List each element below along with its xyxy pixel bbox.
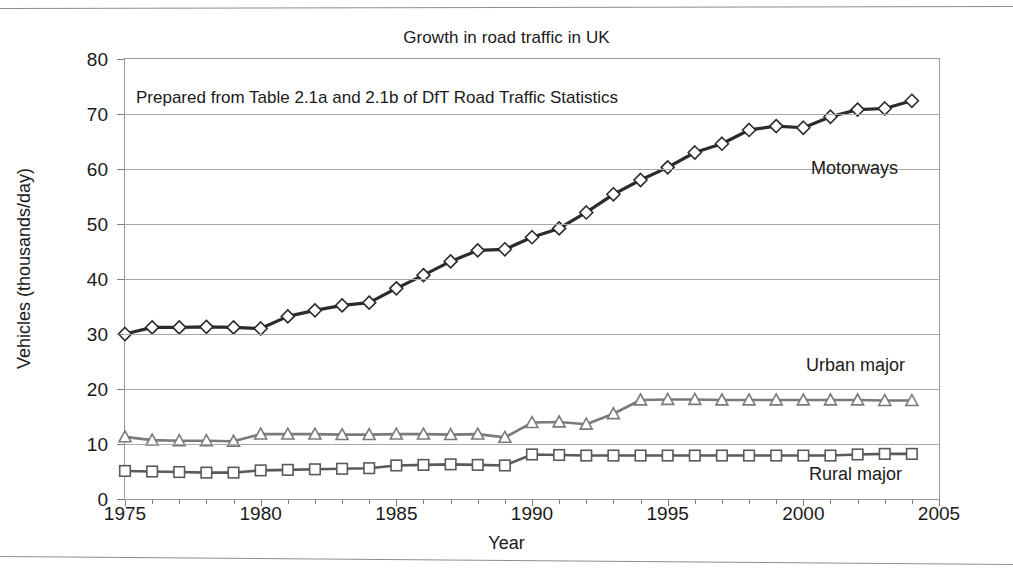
data-point-marker xyxy=(283,465,294,476)
data-point-marker xyxy=(337,463,348,474)
data-point-marker xyxy=(825,450,836,461)
data-point-marker xyxy=(120,466,131,477)
data-point-marker xyxy=(688,146,701,159)
data-point-marker xyxy=(824,110,837,123)
data-point-marker xyxy=(635,450,646,461)
gridline xyxy=(125,224,939,225)
x-tick-mark xyxy=(830,500,831,504)
data-point-marker xyxy=(743,123,756,136)
series-annotation-rural-major: Rural major xyxy=(809,464,902,485)
y-tick-mark xyxy=(117,59,124,60)
y-axis-title: Vehicles (thousands/day) xyxy=(14,59,35,479)
x-tick-label: 1975 xyxy=(104,504,146,523)
x-tick-label: 1980 xyxy=(240,504,282,523)
data-point-marker xyxy=(527,449,538,460)
x-tick-mark xyxy=(261,500,262,506)
data-point-marker xyxy=(662,450,673,461)
x-tick-mark xyxy=(369,500,370,504)
x-axis-title: Year xyxy=(0,533,1013,554)
x-tick-label: 1985 xyxy=(375,504,417,523)
data-point-marker xyxy=(391,460,402,471)
data-point-marker xyxy=(227,321,240,334)
data-point-marker xyxy=(201,467,212,478)
x-tick-mark xyxy=(125,500,126,506)
x-tick-mark xyxy=(749,500,750,504)
gridline xyxy=(125,444,939,445)
data-point-marker xyxy=(770,120,783,133)
chart-subtitle: Prepared from Table 2.1a and 2.1b of DfT… xyxy=(136,88,618,108)
x-tick-mark xyxy=(206,500,207,504)
y-tick-label: 80 xyxy=(87,50,108,69)
data-point-marker xyxy=(500,460,511,471)
data-point-marker xyxy=(471,244,484,257)
data-point-marker xyxy=(174,467,185,478)
x-tick-mark xyxy=(668,500,669,506)
x-tick-label: 2000 xyxy=(782,504,824,523)
series-urban-major xyxy=(119,393,918,446)
data-point-marker xyxy=(717,450,728,461)
data-point-marker xyxy=(798,450,809,461)
y-tick-label: 70 xyxy=(87,105,108,124)
data-point-marker xyxy=(308,304,321,317)
x-tick-mark xyxy=(803,500,804,506)
gridline xyxy=(125,114,939,115)
data-point-marker xyxy=(200,320,213,333)
data-point-marker xyxy=(498,243,511,256)
series-rural-major xyxy=(120,449,917,478)
scanned-page: Growth in road traffic in UK 01020304050… xyxy=(0,0,1013,583)
data-point-marker xyxy=(581,450,592,461)
data-point-marker xyxy=(634,174,647,187)
x-tick-mark xyxy=(858,500,859,504)
data-point-marker xyxy=(879,449,890,460)
y-tick-mark xyxy=(117,499,124,500)
x-tick-mark xyxy=(885,500,886,504)
chart-title: Growth in road traffic in UK xyxy=(0,28,1013,48)
series-line xyxy=(125,454,912,473)
data-point-marker xyxy=(363,296,376,309)
x-tick-mark xyxy=(559,500,560,504)
y-tick-mark xyxy=(117,114,124,115)
x-tick-mark xyxy=(722,500,723,504)
chart-figure: Growth in road traffic in UK 01020304050… xyxy=(0,18,1013,538)
gridline xyxy=(125,279,939,280)
data-point-marker xyxy=(146,321,159,334)
x-tick-mark xyxy=(586,500,587,504)
data-point-marker xyxy=(444,255,457,268)
data-point-marker xyxy=(661,161,674,174)
data-point-marker xyxy=(715,137,728,150)
x-tick-mark xyxy=(152,500,153,504)
y-tick-label: 10 xyxy=(87,435,108,454)
data-point-marker xyxy=(608,450,619,461)
data-point-marker xyxy=(336,299,349,312)
data-point-marker xyxy=(281,310,294,323)
page-border-top xyxy=(0,6,1013,9)
data-point-marker xyxy=(418,460,429,471)
x-tick-mark xyxy=(695,500,696,504)
x-tick-mark xyxy=(613,500,614,504)
x-tick-label: 2005 xyxy=(918,504,960,523)
series-line xyxy=(125,101,912,334)
plot-area xyxy=(124,58,940,500)
data-point-marker xyxy=(797,121,810,134)
y-tick-mark xyxy=(117,169,124,170)
data-point-marker xyxy=(364,463,375,474)
y-tick-label: 60 xyxy=(87,160,108,179)
x-tick-mark xyxy=(505,500,506,504)
data-point-marker xyxy=(310,464,321,475)
x-tick-mark xyxy=(396,500,397,506)
data-point-marker xyxy=(907,449,918,460)
x-tick-mark xyxy=(288,500,289,504)
y-tick-label: 20 xyxy=(87,380,108,399)
x-tick-mark xyxy=(939,500,940,506)
data-point-marker xyxy=(255,465,266,476)
series-motorways xyxy=(119,94,919,340)
x-tick-mark xyxy=(776,500,777,504)
y-tick-mark xyxy=(117,279,124,280)
x-tick-mark xyxy=(234,500,235,504)
data-point-marker xyxy=(852,449,863,460)
y-tick-mark xyxy=(117,224,124,225)
series-line xyxy=(125,399,912,441)
data-point-marker xyxy=(744,450,755,461)
data-point-marker xyxy=(390,282,403,295)
y-tick-mark xyxy=(117,334,124,335)
